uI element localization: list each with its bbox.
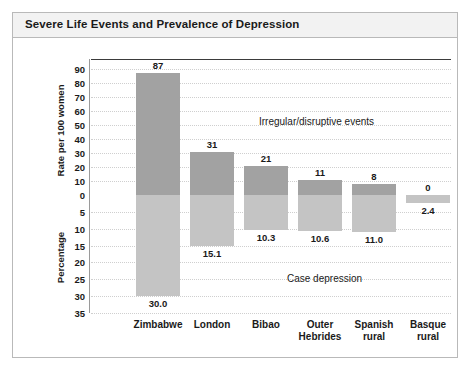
bar-upper <box>190 152 234 195</box>
y-tick-label: 60 <box>74 106 85 117</box>
y-tick-label: 0 <box>80 190 85 201</box>
y-tick-label: 20 <box>74 257 85 268</box>
y-tick-label: 40 <box>74 134 85 145</box>
y-tick-label: 10 <box>74 223 85 234</box>
bar-value-lower: 10.3 <box>236 232 296 243</box>
category-label: Basque rural <box>396 319 460 343</box>
bar-lower <box>190 195 234 246</box>
y-tick-label: 20 <box>74 162 85 173</box>
chart-title-bar: Severe Life Events and Prevalence of Dep… <box>13 13 457 38</box>
bar-value-upper: 31 <box>182 139 242 150</box>
bar-value-lower: 11.0 <box>344 234 404 245</box>
y-tick-label: 25 <box>74 274 85 285</box>
bar-lower <box>406 195 450 203</box>
bar-upper <box>352 184 396 195</box>
bar-value-lower: 15.1 <box>182 248 242 259</box>
bar-lower <box>352 195 396 232</box>
y-tick-label: 50 <box>74 120 85 131</box>
y-tick-label: 70 <box>74 92 85 103</box>
annotation-irregular-events: Irregular/disruptive events <box>259 116 374 127</box>
bar-lower <box>298 195 342 231</box>
bar-value-lower: 2.4 <box>398 205 458 216</box>
y-tick-label: 30 <box>74 148 85 159</box>
bar-upper <box>136 73 180 195</box>
y-axis-title-upper: Rate per 100 women <box>55 76 66 186</box>
bar-upper <box>244 166 288 195</box>
gridline <box>91 296 451 297</box>
bar-lower <box>244 195 288 230</box>
y-axis-line <box>89 59 90 313</box>
y-tick-label: 10 <box>74 176 85 187</box>
bar-upper <box>298 180 342 195</box>
plot-area: 90807060504030201005101520253035 8730.03… <box>91 59 451 313</box>
bar-value-lower: 10.6 <box>290 233 350 244</box>
page-title: Severe Life Events and Prevalence of Dep… <box>25 18 299 30</box>
y-tick-label: 35 <box>74 308 85 319</box>
bar-value-upper: 11 <box>290 167 350 178</box>
y-tick-label: 80 <box>74 78 85 89</box>
chart-figure: Severe Life Events and Prevalence of Dep… <box>12 12 458 358</box>
bar-value-lower: 30.0 <box>128 298 188 309</box>
gridline <box>91 313 451 314</box>
bar-value-upper: 87 <box>128 60 188 71</box>
annotation-case-depression: Case depression <box>287 273 362 284</box>
y-tick-label: 90 <box>74 64 85 75</box>
y-axis-title-lower: Percentage <box>55 211 66 305</box>
y-tick-label: 5 <box>80 206 85 217</box>
bar-lower <box>136 195 180 296</box>
bar-value-upper: 0 <box>398 182 458 193</box>
bar-value-upper: 21 <box>236 153 296 164</box>
y-tick-label: 15 <box>74 240 85 251</box>
bar-value-upper: 8 <box>344 171 404 182</box>
y-tick-label: 30 <box>74 291 85 302</box>
